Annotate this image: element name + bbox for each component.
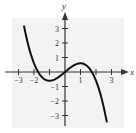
- x-tick-label: −2: [30, 76, 39, 85]
- y-tick-label: −3: [50, 112, 59, 121]
- y-tick-label: 2: [55, 39, 59, 48]
- y-tick-label: 1: [55, 54, 59, 63]
- cubic-function-plot: −3−213−3−2−1123 x y: [0, 0, 136, 133]
- x-tick-label: 1: [79, 76, 83, 85]
- y-tick-label: −1: [50, 83, 59, 92]
- x-tick-label: −3: [14, 76, 23, 85]
- y-tick-label: −2: [50, 97, 59, 106]
- y-axis-label: y: [61, 1, 66, 11]
- plot-panel: [12, 18, 124, 128]
- x-axis-arrow-icon: [121, 69, 129, 75]
- x-tick-label: 3: [110, 76, 114, 85]
- y-axis-arrow-icon: [62, 12, 68, 20]
- y-tick-label: 3: [55, 25, 59, 34]
- x-axis-label: x: [129, 67, 134, 77]
